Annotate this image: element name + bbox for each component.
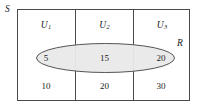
partition-label-1-name: U — [41, 20, 48, 30]
partition-label-2-subscript: 2 — [106, 23, 109, 30]
partition-label-3-name: U — [157, 20, 164, 30]
diagram-canvas — [0, 0, 197, 109]
partition-label-1: U1 — [41, 21, 51, 31]
count-inside-2: 15 — [100, 54, 109, 63]
count-outside-2: 20 — [100, 82, 109, 91]
count-inside-3: 20 — [157, 54, 166, 63]
partition-label-1-subscript: 1 — [48, 23, 51, 30]
partition-label-3: U3 — [157, 21, 167, 31]
event-label: R — [177, 39, 183, 49]
partition-label-2: U2 — [99, 21, 109, 31]
venn-diagram: S R U1 U2 U3 5 15 20 10 20 30 — [0, 0, 197, 109]
partition-label-2-name: U — [99, 20, 106, 30]
count-outside-3: 30 — [157, 82, 166, 91]
count-inside-1: 5 — [44, 54, 49, 63]
sample-space-label: S — [5, 5, 10, 15]
count-outside-1: 10 — [42, 82, 51, 91]
partition-label-3-subscript: 3 — [164, 23, 167, 30]
